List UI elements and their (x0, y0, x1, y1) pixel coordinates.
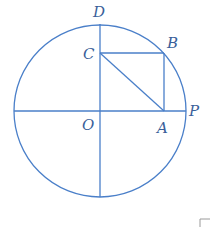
label-b: B (166, 34, 178, 52)
label-a: A (155, 119, 168, 137)
label-p: P (188, 102, 200, 120)
label-c: C (83, 45, 95, 63)
cropped-bracket-fragment (200, 219, 210, 227)
segment-ca (100, 53, 164, 111)
geometry-diagram: D C B O A P (0, 0, 210, 227)
label-d: D (92, 3, 105, 21)
label-o: O (82, 116, 94, 134)
